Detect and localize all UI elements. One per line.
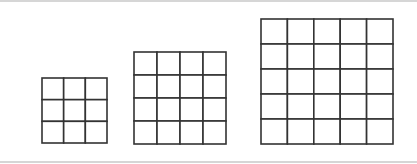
grid-cell xyxy=(367,69,393,94)
grid-cell xyxy=(203,75,226,98)
grid-cell xyxy=(367,119,393,144)
grid-cell xyxy=(157,121,180,144)
grid-cell xyxy=(42,100,64,122)
grid-cell xyxy=(314,69,340,94)
grid-cell xyxy=(134,52,157,75)
grid-cell xyxy=(367,44,393,69)
grid-cell xyxy=(180,52,203,75)
grid-cell xyxy=(180,121,203,144)
grid-cell xyxy=(261,69,287,94)
grid-cell xyxy=(134,75,157,98)
grid-cell xyxy=(203,98,226,121)
grid-cell xyxy=(340,69,366,94)
grid-3x3 xyxy=(42,78,107,143)
grid-cell xyxy=(157,98,180,121)
grid-cell xyxy=(314,119,340,144)
grid-cell xyxy=(85,100,107,122)
grid-cell xyxy=(314,19,340,44)
grid-cell xyxy=(42,78,64,100)
grid-cell xyxy=(287,94,313,119)
grid-cell xyxy=(134,98,157,121)
grid-cell xyxy=(42,121,64,143)
grid-cell xyxy=(340,44,366,69)
grid-cell xyxy=(287,69,313,94)
grid-cell xyxy=(261,44,287,69)
grid-cell xyxy=(157,75,180,98)
grid-cell xyxy=(340,19,366,44)
grid-cell xyxy=(314,94,340,119)
grid-cell xyxy=(367,94,393,119)
grid-cell xyxy=(287,19,313,44)
grid-cell xyxy=(203,121,226,144)
grid-cell xyxy=(314,44,340,69)
grid-cell xyxy=(85,78,107,100)
grid-5x5 xyxy=(261,19,393,144)
grid-cell xyxy=(157,52,180,75)
grid-cell xyxy=(134,121,157,144)
grid-cell xyxy=(64,121,86,143)
grid-cell xyxy=(340,94,366,119)
grid-cell xyxy=(64,100,86,122)
grid-cell xyxy=(180,98,203,121)
grid-4x4 xyxy=(134,52,226,144)
grid-cell xyxy=(261,19,287,44)
grid-cell xyxy=(287,119,313,144)
grid-cell xyxy=(85,121,107,143)
grid-cell xyxy=(64,78,86,100)
grid-cell xyxy=(203,52,226,75)
grids-diagram xyxy=(0,0,417,164)
grid-cell xyxy=(261,94,287,119)
grid-cell xyxy=(287,44,313,69)
grid-cell xyxy=(340,119,366,144)
grid-cell xyxy=(367,19,393,44)
grid-cell xyxy=(180,75,203,98)
grid-cell xyxy=(261,119,287,144)
